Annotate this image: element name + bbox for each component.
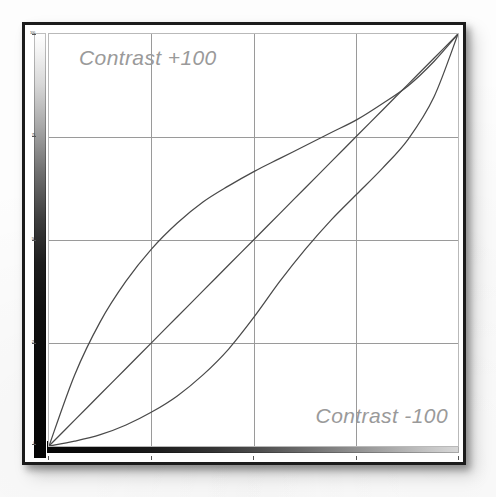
axis-tick-mark-2: [32, 240, 36, 241]
axis-tick-mark-3: [32, 343, 36, 344]
output-gradient-bar: [34, 33, 46, 458]
axis-tick-mark-1: [32, 136, 36, 137]
tone-curve-frame: 100 75 50 25 0: [22, 22, 466, 465]
frame-inner: 100 75 50 25 0: [25, 25, 463, 462]
axis-tick-mark-4: [32, 444, 36, 445]
input-tick-mark-3: [356, 456, 357, 460]
input-tick-mark-1: [151, 456, 152, 460]
input-tick-mark-2: [253, 456, 254, 460]
tone-curves[interactable]: [49, 34, 458, 446]
input-tick-mark-4: [458, 456, 459, 460]
input-tick-mark-0: [48, 456, 49, 460]
axis-tick-mark-0: [32, 34, 36, 35]
tone-curve-1[interactable]: [49, 34, 458, 446]
curve-plot-area[interactable]: Contrast +100 Contrast -100: [48, 33, 459, 447]
scanned-page: 100 75 50 25 0: [0, 0, 496, 497]
